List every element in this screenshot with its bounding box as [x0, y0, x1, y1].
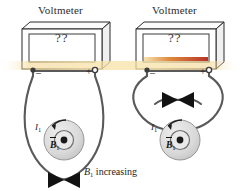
- caption-text: increasing: [96, 166, 137, 177]
- left-field-vector-bar: [50, 137, 56, 138]
- right-negative-terminal-label: –: [150, 67, 155, 78]
- caption-field-subscript: 1: [90, 171, 93, 178]
- right-field-subscript: 1: [172, 144, 175, 151]
- left-loop-arrowhead-a: [48, 172, 64, 188]
- figure-caption: B1 increasing: [84, 166, 137, 178]
- left-current-label: I1: [35, 122, 41, 133]
- left-positive-terminal-dot: [92, 67, 97, 72]
- left-negative-terminal-label: –: [36, 67, 41, 78]
- right-field-label: B1: [166, 140, 176, 151]
- left-field-subscript: 1: [56, 144, 59, 151]
- right-meter-top-face: [136, 22, 224, 29]
- figure-canvas: [0, 0, 240, 191]
- left-voltmeter-label: Voltmeter: [38, 4, 83, 16]
- right-loop-current-arrowheads: [162, 92, 194, 108]
- left-current-subscript: 1: [38, 126, 41, 133]
- right-field-out-of-page-dot: [177, 137, 184, 144]
- right-loop-arrowhead-a: [162, 92, 178, 108]
- right-meter-reading-bar: [144, 57, 208, 61]
- right-current-subscript: 1: [154, 126, 157, 133]
- right-field-vector-bar: [166, 137, 172, 138]
- right-positive-terminal-label: +: [200, 66, 206, 77]
- right-positive-terminal-dot: [206, 67, 211, 72]
- right-loop-arrowhead-b: [178, 92, 194, 108]
- left-field-out-of-page-dot: [61, 137, 68, 144]
- left-loop-arrowhead-b: [64, 172, 80, 188]
- left-meter-top-face: [22, 22, 110, 29]
- induction-figure: Voltmeter Voltmeter ?? ?? – + – + I1 I1 …: [0, 0, 240, 191]
- left-negative-terminal-dot: [30, 67, 35, 72]
- right-current-label: I1: [151, 122, 157, 133]
- right-negative-terminal-dot: [144, 67, 149, 72]
- left-field-label: B1: [50, 140, 60, 151]
- left-voltmeter-display-value: ??: [55, 30, 69, 46]
- right-voltmeter-label: Voltmeter: [152, 4, 197, 16]
- left-positive-terminal-label: +: [86, 66, 92, 77]
- right-voltmeter-display-value: ??: [168, 30, 182, 46]
